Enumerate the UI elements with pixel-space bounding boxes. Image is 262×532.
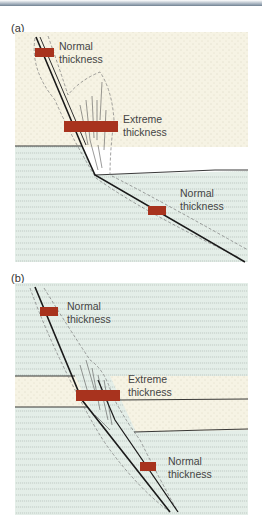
- label-thickness: thickness: [180, 200, 224, 212]
- thickness-bar: [140, 462, 156, 471]
- thickness-bar: [76, 390, 120, 401]
- thickness-bar: [35, 48, 54, 57]
- thickness-bar: [148, 206, 166, 215]
- label-thickness: thickness: [123, 126, 167, 138]
- label-thickness: thickness: [59, 53, 103, 65]
- label-thickness: thickness: [128, 386, 172, 398]
- thickness-bar: [40, 307, 58, 316]
- label-normal: Normal: [59, 40, 93, 52]
- label-extreme: Extreme: [123, 113, 162, 125]
- label-extreme: Extreme: [128, 373, 167, 385]
- label-normal: Normal: [168, 455, 202, 467]
- top-border: [0, 0, 262, 6]
- label-thickness: thickness: [67, 313, 111, 325]
- label-thickness: thickness: [168, 468, 212, 480]
- label-normal: Normal: [180, 187, 214, 199]
- label-normal: Normal: [67, 300, 101, 312]
- panel-b-diagram: Normal thickness Extreme thickness Norma…: [0, 280, 262, 520]
- thickness-bar: [64, 121, 118, 132]
- panel-a-diagram: Normal thickness Extreme thickness Norma…: [0, 30, 262, 270]
